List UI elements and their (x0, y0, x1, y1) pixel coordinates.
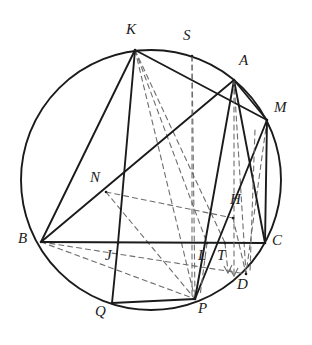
solid-segments-group (41, 50, 267, 303)
vertex-point-S (191, 55, 194, 58)
point-label-D: D (237, 277, 248, 292)
arrowhead-group (224, 265, 238, 276)
solid-segment-B-A (41, 80, 234, 242)
vertex-point-A (233, 79, 236, 82)
geometry-figure: KSAMCDPQBNJLTH (0, 0, 312, 345)
vertex-point-N (105, 191, 108, 194)
point-label-P: P (198, 301, 207, 316)
point-label-H: H (230, 192, 241, 207)
vertex-point-D (245, 273, 248, 276)
solid-segment-A-M (234, 80, 267, 120)
point-label-Q: Q (95, 304, 106, 319)
point-label-T: T (217, 248, 225, 263)
vertex-point-C (264, 242, 267, 245)
solid-segment-M-C (265, 120, 267, 243)
vertex-point-B (40, 241, 43, 244)
point-label-L: L (198, 248, 206, 263)
vertex-point-H (232, 217, 235, 220)
vertex-point-K (134, 49, 137, 52)
point-label-M: M (274, 100, 287, 115)
vertex-point-L (206, 242, 209, 245)
vertex-point-P (194, 298, 197, 301)
point-label-N: N (90, 170, 100, 185)
vertex-point-T (224, 242, 227, 245)
geometry-canvas (0, 0, 312, 345)
solid-segment-J-Q (112, 243, 118, 303)
point-label-S: S (183, 28, 191, 43)
point-label-C: C (272, 233, 282, 248)
point-label-A: A (239, 53, 248, 68)
vertex-point-Q (111, 302, 114, 305)
solid-segment-A-P (195, 80, 234, 299)
vertex-point-J (117, 242, 120, 245)
dashed-segment-K-L (135, 50, 207, 243)
point-label-J: J (105, 248, 112, 263)
vertical-dashed-M (250, 130, 255, 272)
solid-segment-Q-P (112, 299, 195, 303)
point-label-K: K (126, 22, 136, 37)
solid-segment-B-C (41, 242, 265, 243)
vertex-point-M (266, 119, 269, 122)
point-label-B: B (18, 231, 27, 246)
